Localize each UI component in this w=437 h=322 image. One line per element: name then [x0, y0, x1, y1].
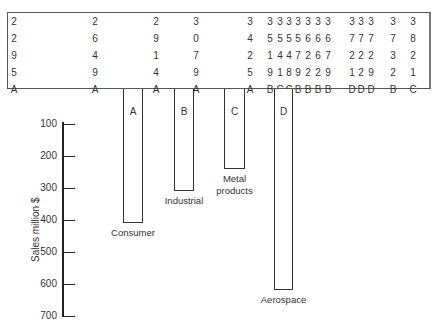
table-code-letter: B — [323, 83, 333, 96]
table-code-digit: 2 — [303, 66, 313, 79]
table-code-digit: 3 — [191, 15, 201, 28]
table-code-digit: 3 — [408, 15, 418, 28]
table-code-digit: 7 — [388, 32, 398, 45]
bar-category-label: Metal products — [195, 173, 275, 197]
table-code-letter: D — [366, 83, 376, 96]
y-tick-label: 100 — [27, 118, 57, 129]
table-code-digit: 3 — [388, 15, 398, 28]
table-code-digit: 3 — [245, 15, 255, 28]
table-code-letter: B — [313, 83, 323, 96]
y-axis-tick — [63, 252, 75, 253]
table-code-digit: 9 — [265, 66, 275, 79]
bar-d: D — [274, 89, 293, 290]
table-code-digit: 2 — [9, 32, 19, 45]
table-code-digit: 2 — [313, 66, 323, 79]
table-code-digit: 2 — [151, 15, 161, 28]
table-code-digit: 3 — [356, 15, 366, 28]
table-code-digit: 1 — [265, 49, 275, 62]
table-code-digit: 3 — [265, 15, 275, 28]
table-code-digit: 3 — [303, 15, 313, 28]
table-code-letter: B — [388, 83, 398, 96]
table-code-digit: 9 — [90, 66, 100, 79]
y-axis-tick — [63, 220, 75, 221]
table-code-digit: 3 — [366, 15, 376, 28]
bar-letter: A — [124, 106, 142, 117]
table-code-digit: 4 — [90, 49, 100, 62]
table-code-digit: 5 — [9, 66, 19, 79]
table-code-digit: 2 — [356, 66, 366, 79]
table-code-digit: 4 — [151, 66, 161, 79]
table-code-digit: 5 — [245, 66, 255, 79]
table-code-digit: 9 — [191, 66, 201, 79]
y-tick-label: 600 — [27, 278, 57, 289]
table-code-digit: 7 — [293, 49, 303, 62]
bar-category-label: Industrial — [144, 195, 224, 207]
table-code-digit: 7 — [366, 32, 376, 45]
table-code-digit: 2 — [356, 49, 366, 62]
table-code-digit: 6 — [313, 32, 323, 45]
table-code-digit: 2 — [408, 49, 418, 62]
table-code-digit: 6 — [90, 32, 100, 45]
table-code-digit: 9 — [323, 66, 333, 79]
table-code-digit: 7 — [191, 49, 201, 62]
bar-letter: B — [175, 106, 193, 117]
y-axis-tick — [63, 124, 75, 125]
bar-letter: D — [275, 106, 292, 117]
table-code-digit: 3 — [388, 49, 398, 62]
bar-category-label: Consumer — [93, 227, 173, 239]
bar-category-label: Aerospace — [244, 294, 324, 306]
table-code-digit: 7 — [323, 49, 333, 62]
table-code-digit: 9 — [151, 32, 161, 45]
table-code-letter: D — [356, 83, 366, 96]
table-code-letter: A — [245, 83, 255, 96]
table-code-digit: 9 — [9, 49, 19, 62]
table-code-digit: 6 — [313, 49, 323, 62]
bar-c: C — [224, 89, 245, 169]
table-code-digit: 0 — [191, 32, 201, 45]
bar-a: A — [123, 89, 143, 223]
table-code-digit: 6 — [303, 32, 313, 45]
y-tick-label: 700 — [27, 310, 57, 321]
y-axis-tick — [63, 316, 75, 317]
table-code-digit: 2 — [9, 15, 19, 28]
table-code-letter: A — [151, 83, 161, 96]
y-axis-tick — [63, 188, 75, 189]
y-tick-label: 200 — [27, 150, 57, 161]
bar-letter: C — [225, 106, 244, 117]
table-code-digit: 3 — [323, 15, 333, 28]
table-code-digit: 7 — [356, 32, 366, 45]
table-code-digit: 9 — [366, 66, 376, 79]
y-axis-label: Sales million $ — [30, 198, 41, 262]
table-code-digit: 6 — [323, 32, 333, 45]
table-code-digit: 2 — [245, 49, 255, 62]
y-tick-label: 300 — [27, 182, 57, 193]
table-code-digit: 4 — [245, 32, 255, 45]
table-code-digit: 9 — [293, 66, 303, 79]
table-code-letter: A — [9, 83, 19, 96]
table-code-digit: 2 — [388, 66, 398, 79]
y-axis-tick — [63, 284, 75, 285]
y-axis-tick — [63, 156, 75, 157]
table-code-letter: B — [293, 83, 303, 96]
table-code-digit: 8 — [408, 32, 418, 45]
table-code-digit: 2 — [303, 49, 313, 62]
table-code-letter: B — [303, 83, 313, 96]
table-code-letter: C — [408, 83, 418, 96]
table-code-digit: 3 — [313, 15, 323, 28]
table-code-digit: 1 — [151, 49, 161, 62]
bar-b: B — [174, 89, 194, 191]
table-code-digit: 2 — [90, 15, 100, 28]
table-code-digit: 3 — [293, 15, 303, 28]
table-code-digit: 2 — [366, 49, 376, 62]
table-code-digit: 5 — [265, 32, 275, 45]
table-code-digit: 1 — [408, 66, 418, 79]
table-code-letter: A — [90, 83, 100, 96]
table-code-digit: 5 — [293, 32, 303, 45]
